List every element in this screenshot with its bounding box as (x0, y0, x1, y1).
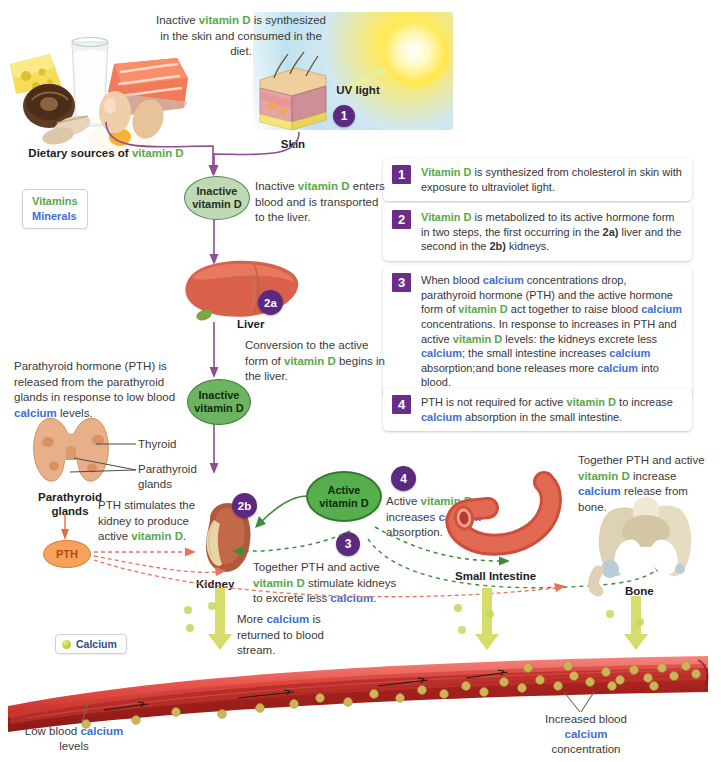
sun-icon (385, 24, 449, 88)
note-blood-to-liver: Inactive vitamin D enters blood and is t… (255, 179, 387, 226)
uv-light-label: UV light (335, 84, 381, 98)
bone-illustration (588, 495, 706, 591)
label-low-blood-calcium: Low blood calcium levels (24, 724, 124, 754)
legend-card-2[interactable]: 2 Vitamin D is metabolized to its active… (383, 203, 692, 261)
legend-badge-3: 3 (392, 273, 411, 292)
note-liver-conversion: Conversion to the active form of vitamin… (245, 338, 385, 385)
step-badge-skin: 1 (333, 105, 355, 127)
liver-label: Liver (237, 318, 265, 330)
legend-badge-2: 2 (392, 210, 411, 229)
node-inactive-vitamin-d-2[interactable]: Inactivevitamin D (187, 379, 251, 425)
legend-card-1[interactable]: 1 Vitamin D is synthesized from choleste… (383, 158, 692, 201)
node-pth[interactable]: PTH (43, 540, 91, 568)
node-pth-label: PTH (56, 548, 78, 560)
flow-arrow-node2-to-kidney (209, 424, 223, 476)
node-inactive-vd-1-label: Inactivevitamin D (192, 185, 242, 211)
small-intestine-illustration (448, 478, 560, 574)
arrow-parathyroid-to-pth (60, 514, 74, 542)
key-vitamins: Vitamins (32, 194, 78, 209)
legend-text-2: Vitamin D is metabolized to its active h… (421, 210, 683, 254)
legend-badge-4: 4 (392, 395, 411, 414)
label-increased-blood-calcium: Increased blood calcium concentration (534, 712, 638, 757)
skin-illustration (256, 62, 330, 134)
small-intestine-label: Small Intestine (455, 570, 536, 582)
node-inactive-vitamin-d-1[interactable]: Inactivevitamin D (184, 176, 250, 220)
dashed-arrows-orange-pth (86, 534, 666, 614)
parathyroid-glands-leader-label: Parathyroid glands (138, 462, 210, 492)
key-minerals: Minerals (32, 209, 78, 224)
legend-card-3[interactable]: 3 When blood calcium concentrations drop… (383, 266, 692, 397)
legend-text-3: When blood calcium concentrations drop, … (421, 273, 683, 390)
calcium-legend-label: Calcium (76, 638, 117, 650)
calcium-dot-icon (62, 640, 71, 649)
thyroid-label: Thyroid (138, 437, 176, 453)
calcium-legend: Calcium (55, 634, 127, 654)
calcium-particles-bone (604, 604, 654, 648)
legend-card-4[interactable]: 4 PTH is not required for active vitamin… (383, 388, 692, 431)
legend-text-1: Vitamin D is synthesized from cholestero… (421, 165, 683, 194)
legend-text-4: PTH is not required for active vitamin D… (421, 395, 683, 424)
step-badge-four: 4 (391, 466, 416, 491)
legend-badge-1: 1 (392, 165, 411, 184)
node-inactive-vd-2-label: Inactivevitamin D (194, 389, 244, 415)
vitamins-minerals-key: Vitamins Minerals (22, 189, 88, 229)
flow-arrow-skin-to-node (213, 130, 323, 182)
calcium-particles-kidney (182, 598, 242, 646)
flow-arrow-liver-to-node2 (209, 322, 223, 380)
flow-arrow-diet-to-node (100, 120, 230, 182)
step-badge-liver: 2a (258, 290, 283, 315)
calcium-particles-intestine (452, 598, 512, 646)
